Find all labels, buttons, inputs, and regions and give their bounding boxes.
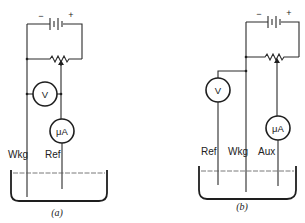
voltmeter-b: V: [206, 70, 247, 102]
voltmeter-symbol: V: [42, 89, 49, 100]
electrode-label-wkg: Wkg: [8, 149, 28, 160]
panel-b: − + V μA Ref Wkg Aux: [199, 8, 299, 213]
electrode-label-wkg: Wkg: [228, 146, 248, 157]
potentiometer-a: [27, 56, 82, 66]
electrode-label-ref: Ref: [201, 146, 217, 157]
voltmeter-a: V: [26, 82, 63, 106]
electrode-label-aux: Aux: [258, 146, 275, 157]
caption-b: (b): [236, 201, 248, 213]
beaker-a: [11, 170, 107, 201]
microammeter-a: μA: [50, 119, 74, 143]
microammeter-b: μA: [266, 116, 290, 140]
electrode-label-ref: Ref: [45, 149, 61, 160]
voltmeter-symbol: V: [215, 85, 222, 96]
beaker-b: [199, 166, 296, 199]
battery-plus-label: +: [286, 8, 291, 18]
microammeter-symbol: μA: [56, 126, 68, 137]
caption-a: (a): [51, 207, 63, 219]
battery-minus-label: −: [38, 11, 43, 21]
panel-a: − + V μA Wkg Ref: [8, 10, 107, 219]
battery-a: − +: [27, 10, 82, 59]
electrochemical-circuit-diagrams: − + V μA Wkg Ref: [0, 0, 305, 223]
battery-b: − +: [246, 8, 299, 57]
battery-minus-label: −: [256, 9, 261, 19]
microammeter-symbol: μA: [272, 123, 284, 134]
battery-plus-label: +: [68, 10, 73, 20]
potentiometer-b: [246, 54, 299, 63]
